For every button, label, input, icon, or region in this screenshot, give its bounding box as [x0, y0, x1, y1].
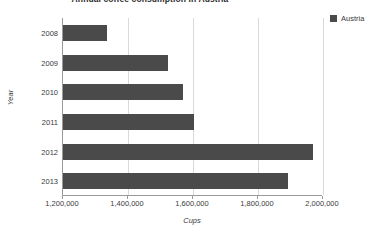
bar-band: [63, 144, 323, 160]
bar-2012[interactable]: [63, 144, 313, 160]
bar-band: [63, 25, 323, 41]
x-tick-label-2: 1,600,000: [175, 199, 208, 208]
x-tick-label-3: 1,800,000: [240, 199, 273, 208]
bar-2013[interactable]: [63, 173, 288, 189]
x-tick-label-4: 2,000,000: [305, 199, 338, 208]
bar-chart: Annual coffee consumption in Austria Aus…: [0, 0, 372, 236]
chart-title: Annual coffee consumption in Austria: [0, 0, 300, 4]
y-tick-label-2013: 2013: [4, 177, 58, 186]
gridline: [193, 18, 194, 195]
plot-inner: [63, 18, 322, 195]
y-tick-label-2009: 2009: [4, 58, 58, 67]
x-tick-label-1: 1,400,000: [110, 199, 143, 208]
gridline: [323, 18, 324, 195]
x-axis-tick-labels: 1,200,0001,400,0001,600,0001,800,0002,00…: [62, 199, 322, 211]
y-tick-label-2010: 2010: [4, 88, 58, 97]
bar-2009[interactable]: [63, 55, 168, 71]
x-axis-title: Cups: [62, 216, 322, 225]
y-tick-label-2008: 2008: [4, 28, 58, 37]
chart-legend: Austria: [330, 14, 364, 23]
gridline: [128, 18, 129, 195]
bar-band: [63, 84, 323, 100]
y-tick-label-2011: 2011: [4, 117, 58, 126]
bar-band: [63, 173, 323, 189]
y-tick-label-2012: 2012: [4, 147, 58, 156]
bar-band: [63, 55, 323, 71]
bar-band: [63, 114, 323, 130]
bar-2011[interactable]: [63, 114, 194, 130]
legend-label-austria: Austria: [341, 14, 364, 23]
gridline: [258, 18, 259, 195]
bar-2010[interactable]: [63, 84, 183, 100]
x-tick-label-0: 1,200,000: [45, 199, 78, 208]
y-axis-tick-labels: 200820092010201120122013: [0, 18, 58, 196]
legend-swatch-austria: [330, 15, 337, 22]
plot-area: [62, 18, 322, 196]
bar-2008[interactable]: [63, 25, 107, 41]
